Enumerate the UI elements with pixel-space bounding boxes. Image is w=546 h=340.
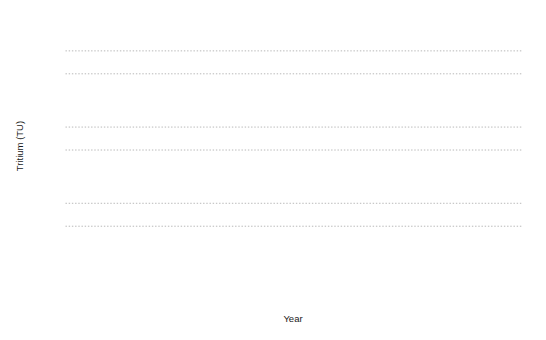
tritium-time-series-chart: Tritium (TU) Year — [0, 0, 546, 340]
x-axis-title: Year — [283, 313, 302, 324]
y-axis-title: Tritium (TU) — [14, 121, 25, 171]
chart-canvas: Tritium (TU) Year — [0, 0, 546, 340]
